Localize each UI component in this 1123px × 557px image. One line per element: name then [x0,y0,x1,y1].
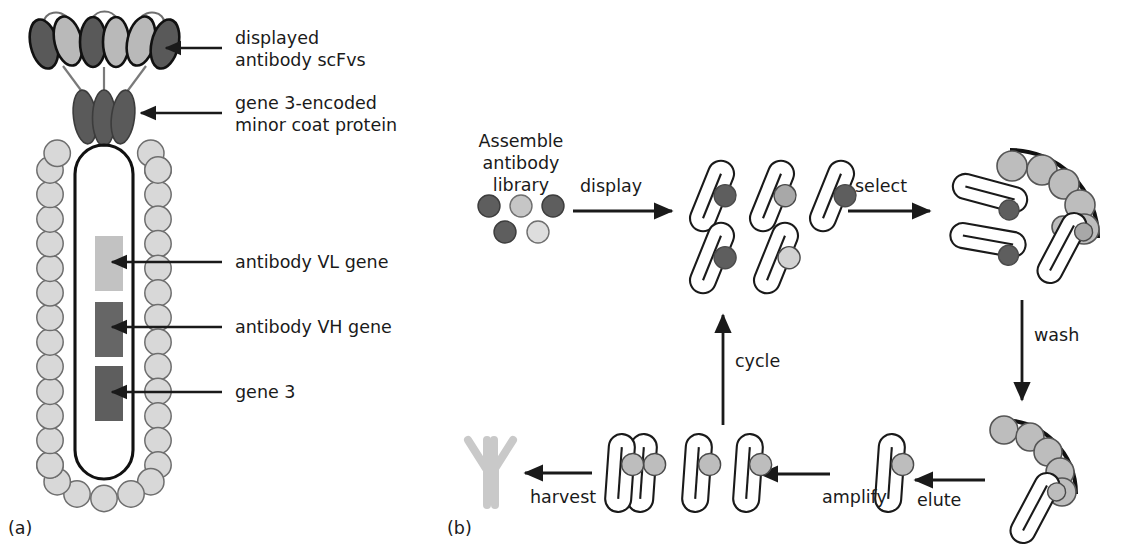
selection-well-top [947,150,1099,291]
label-assemble-line2: antibody [451,153,591,174]
capsid-subunit [118,481,144,507]
capsid-subunit [37,304,63,330]
capsid-subunit [145,181,171,207]
capsid-subunit [37,403,63,429]
label-coat-protein-line2: minor coat protein [235,115,397,136]
library-dot [527,221,549,243]
gene-box-vh [95,302,123,357]
label-cycle: cycle [735,351,780,372]
library-dot [542,195,564,217]
capsid-subunit [37,181,63,207]
scfv-unit-left [25,13,87,93]
figure-root: displayed antibody scFvs gene 3-encoded … [0,0,1123,557]
selection-well-bottom [990,416,1076,551]
label-wash: wash [1034,325,1079,346]
label-amplify: amplify [822,487,887,508]
capsid-subunit [145,231,171,257]
phage-particle [947,221,1028,268]
label-select: select [855,176,907,197]
label-harvest: harvest [530,487,596,508]
library-dot [494,221,516,243]
capsid-subunit [145,206,171,232]
antibody-library-dots [478,195,564,243]
label-displayed-scfv-line2: antibody scFvs [235,50,366,71]
capsid-subunit [37,280,63,306]
library-dot [478,195,500,217]
scfv-stalk [63,66,83,93]
capsid-subunit [37,255,63,281]
diagram-canvas [0,0,1123,557]
label-display: display [580,176,642,197]
capsid-subunit [37,378,63,404]
capsid-subunit [145,403,171,429]
label-assemble-line1: Assemble [451,131,591,152]
gene-box-g3 [95,366,123,421]
capsid-subunit [91,485,117,511]
gene-box-vl [95,236,123,291]
displayed-phage-group [686,157,867,301]
panel-label-a: (a) [8,518,32,538]
capsid-subunit [37,329,63,355]
panel-a [25,12,222,512]
capsid-subunit [145,157,171,183]
capsid-subunit [37,452,63,478]
antigen [997,151,1027,181]
scfv-unit-middle [80,12,129,93]
antigen [990,416,1018,444]
phage-particle [686,219,747,301]
panel-label-b: (b) [447,518,472,538]
phage-particle [681,433,722,513]
capsid-subunit [145,354,171,380]
capsid-subunit [37,206,63,232]
amplified-phage-group [604,433,773,513]
displayed-scfv-dot [698,453,721,476]
capsid-subunit [37,230,63,256]
scfv-stalk [126,66,146,93]
minor-coat-protein [108,89,137,145]
displayed-scfv-dot [643,453,666,476]
label-elute: elute [917,490,961,511]
label-vh-gene: antibody VH gene [235,317,392,338]
capsid-subunit [145,329,171,355]
capsid-subunit [44,140,70,166]
displayed-scfv-dot [749,453,772,476]
phage-particle [732,433,773,513]
displayed-scfv-dot [621,453,644,476]
label-displayed-scfv-line1: displayed [235,28,319,49]
label-assemble-line3: library [451,175,591,196]
label-vl-gene: antibody VL gene [235,252,388,273]
capsid-subunit [145,427,171,453]
phage-particle [806,157,867,239]
label-gene3: gene 3 [235,382,295,403]
displayed-scfv-dot [891,453,914,476]
capsid-subunit [145,280,171,306]
capsid-subunit [37,353,63,379]
label-coat-protein-line1: gene 3-encoded [235,93,377,114]
capsid-subunit [145,255,171,281]
harvested-antibody [468,440,513,505]
capsid-subunit [37,427,63,453]
scfv-vl-domain [103,17,129,67]
library-dot [510,195,532,217]
scfv-unit-right [122,13,184,93]
